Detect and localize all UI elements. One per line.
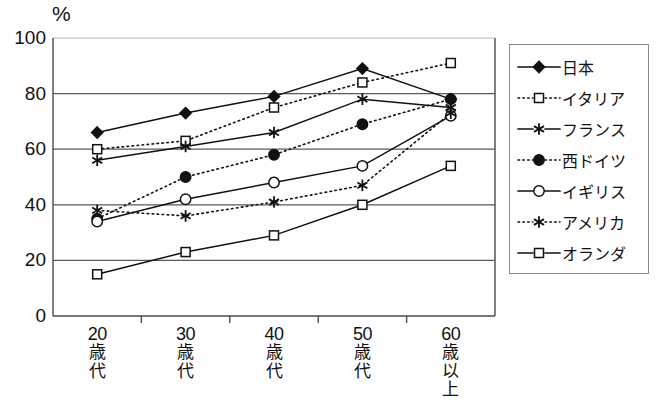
legend-marker [533, 61, 544, 72]
x-tick-char: 代 [163, 362, 209, 380]
marker-open-square [270, 103, 279, 112]
x-tick-label-1: 30歳代 [163, 325, 209, 380]
marker-open-square [181, 248, 190, 257]
x-tick-char: 代 [74, 362, 120, 380]
legend-symbol-filled-circle [516, 150, 562, 170]
legend-marker [535, 248, 544, 257]
legend-item-2[interactable]: フランス [516, 113, 644, 144]
marker-filled-circle [446, 94, 456, 104]
x-tick-label-0: 20歳代 [74, 325, 120, 380]
x-tick-number: 40 [251, 325, 297, 343]
x-tick-char: 代 [251, 362, 297, 380]
x-tick-char: 歳 [428, 343, 474, 361]
x-tick-char: 代 [339, 362, 385, 380]
legend-item-6[interactable]: オランダ [516, 237, 644, 268]
legend-marker [534, 185, 544, 195]
x-tick-number: 30 [163, 325, 209, 343]
marker-filled-diamond [268, 91, 279, 102]
marker-asterisk [534, 123, 544, 135]
marker-asterisk [534, 216, 544, 228]
marker-open-square [358, 200, 367, 209]
marker-open-square [535, 93, 544, 102]
x-tick-label-2: 40歳代 [251, 325, 297, 380]
line-chart: % 020406080100 20歳代30歳代40歳代50歳代60歳以上 日本イ… [0, 0, 656, 405]
x-tick-char: 上 [428, 380, 474, 398]
marker-open-circle [357, 161, 367, 171]
legend-symbol-open-square [516, 243, 562, 263]
legend-label: 日本 [562, 55, 594, 79]
x-tick-char: 歳 [339, 343, 385, 361]
marker-open-circle [180, 194, 190, 204]
legend-symbol-asterisk [516, 212, 562, 232]
series-markers-1 [93, 59, 456, 154]
marker-open-square [535, 248, 544, 257]
legend-marker [534, 154, 544, 164]
marker-filled-circle [180, 172, 190, 182]
x-tick-label-4: 60歳以上 [428, 325, 474, 398]
legend-label: 西ドイツ [562, 148, 626, 172]
legend-label: オランダ [562, 241, 626, 265]
marker-filled-circle [269, 150, 279, 160]
legend-marker [535, 93, 544, 102]
legend-symbol-open-circle [516, 181, 562, 201]
legend-label: フランス [562, 117, 626, 141]
legend-marker [534, 216, 544, 228]
legend-symbol-filled-diamond [516, 57, 562, 77]
marker-filled-diamond [533, 61, 544, 72]
legend-label: イタリア [562, 86, 625, 110]
marker-filled-diamond [92, 127, 103, 138]
legend-item-5[interactable]: アメリカ [516, 206, 644, 237]
legend-item-4[interactable]: イギリス [516, 175, 644, 206]
legend-label: アメリカ [562, 210, 625, 234]
marker-open-square [93, 270, 102, 279]
legend-label: イギリス [562, 179, 626, 203]
legend-item-1[interactable]: イタリア [516, 82, 644, 113]
x-tick-number: 50 [339, 325, 385, 343]
marker-open-circle [92, 216, 102, 226]
marker-filled-diamond [180, 107, 191, 118]
marker-open-square [446, 161, 455, 170]
legend-item-3[interactable]: 西ドイツ [516, 144, 644, 175]
marker-open-circle [269, 177, 279, 187]
marker-filled-circle [534, 154, 544, 164]
legend-marker [534, 123, 544, 135]
marker-open-circle [534, 185, 544, 195]
marker-open-square [358, 78, 367, 87]
chart-legend: 日本イタリアフランス西ドイツイギリスアメリカオランダ [509, 44, 649, 274]
marker-filled-circle [357, 119, 367, 129]
x-tick-number: 60 [428, 325, 474, 343]
x-tick-number: 20 [74, 325, 120, 343]
legend-item-0[interactable]: 日本 [516, 51, 644, 82]
marker-filled-diamond [357, 63, 368, 74]
x-tick-char: 歳 [251, 343, 297, 361]
marker-open-square [270, 231, 279, 240]
x-tick-char: 歳 [74, 343, 120, 361]
marker-open-square [446, 59, 455, 68]
x-tick-char: 以 [428, 362, 474, 380]
legend-symbol-open-square [516, 88, 562, 108]
legend-symbol-asterisk [516, 119, 562, 139]
x-tick-label-3: 50歳代 [339, 325, 385, 380]
x-tick-char: 歳 [163, 343, 209, 361]
marker-open-square [93, 145, 102, 154]
